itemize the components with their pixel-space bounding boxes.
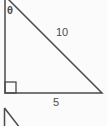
right-triangle-diagram: θ 10 5 <box>0 0 107 126</box>
right-triangle-outline <box>5 0 102 93</box>
triangle-figure-canvas: θ 10 5 <box>0 0 107 126</box>
angle-theta-label: θ <box>7 4 13 16</box>
hypotenuse-length-label: 10 <box>56 26 68 38</box>
partial-second-triangle <box>5 108 21 126</box>
right-angle-marker <box>5 82 16 93</box>
base-length-label: 5 <box>53 96 59 108</box>
